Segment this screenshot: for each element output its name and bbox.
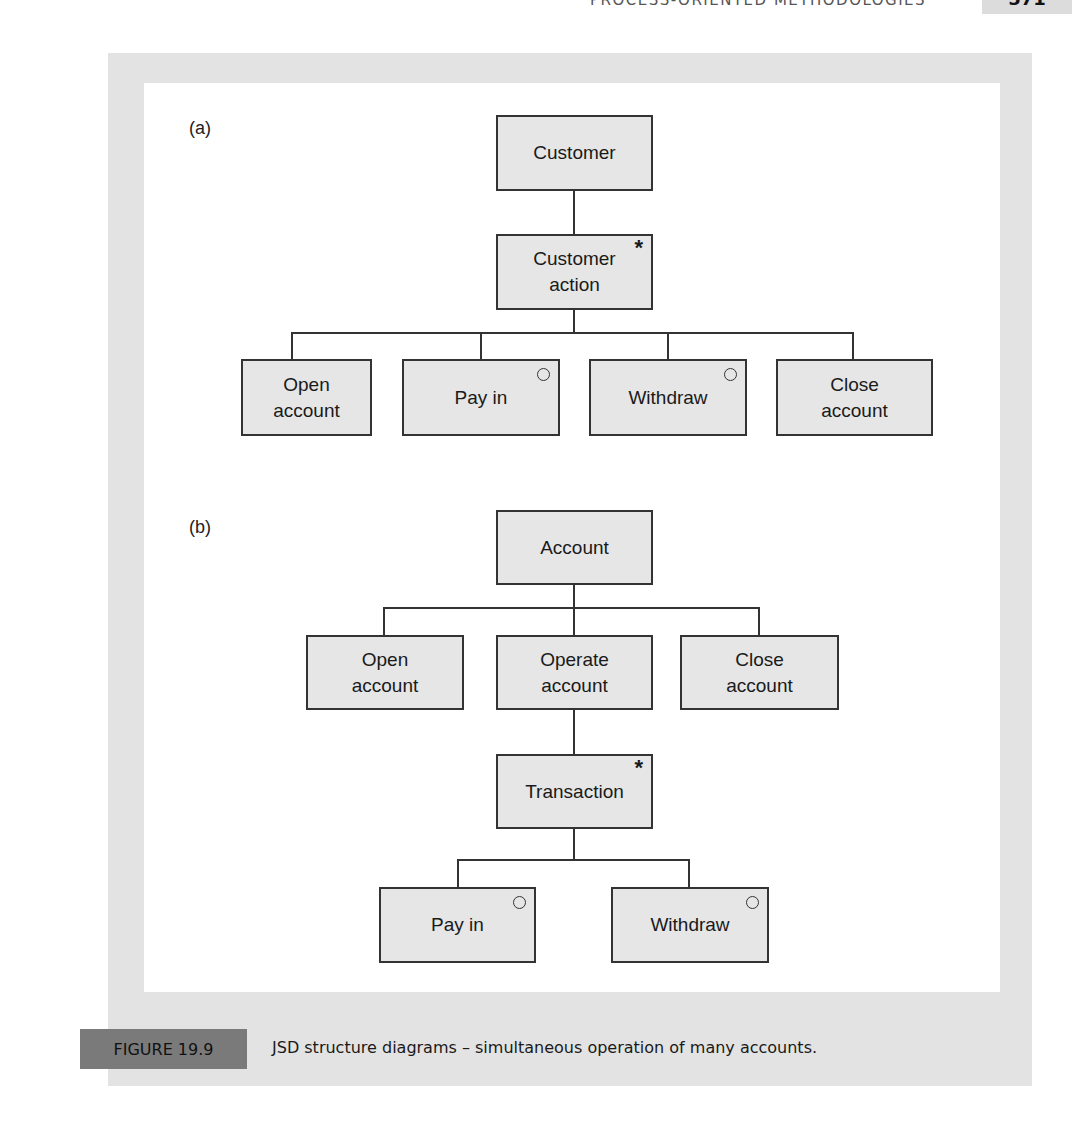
running-header-title: PROCESS-ORIENTED METHODOLOGIES	[590, 0, 926, 9]
selection-circle-icon	[537, 368, 550, 381]
connector-line	[852, 332, 854, 360]
connector-line	[383, 607, 385, 636]
node-text: Withdraw	[650, 912, 729, 938]
node-text: Operate account	[540, 647, 609, 699]
selection-circle-icon	[724, 368, 737, 381]
node-pay-in: Pay in	[379, 887, 536, 963]
node-text: Open account	[273, 372, 340, 424]
page-number: 571	[982, 0, 1072, 14]
node-text: Close account	[821, 372, 888, 424]
connector-line	[573, 309, 575, 334]
connector-bar	[457, 859, 690, 861]
selection-circle-icon	[746, 896, 759, 909]
node-pay-in: Pay in	[402, 359, 560, 436]
node-text: Withdraw	[628, 385, 707, 411]
connector-line	[573, 709, 575, 755]
connector-line	[688, 859, 690, 888]
node-account: Account	[496, 510, 653, 585]
node-transaction: Transaction *	[496, 754, 653, 829]
node-close-account: Close account	[680, 635, 839, 710]
node-close-account: Close account	[776, 359, 933, 436]
node-text: Open account	[352, 647, 419, 699]
connector-line	[758, 607, 760, 636]
node-withdraw: Withdraw	[611, 887, 769, 963]
figure-label: FIGURE 19.9	[80, 1029, 247, 1069]
node-open-account: Open account	[241, 359, 372, 436]
iteration-star-icon: *	[634, 757, 643, 779]
node-text: Account	[540, 535, 609, 561]
iteration-star-icon: *	[634, 237, 643, 259]
connector-bar	[291, 332, 854, 334]
connector-line	[573, 190, 575, 235]
connector-line	[667, 332, 669, 360]
figure-caption: JSD structure diagrams – simultaneous op…	[272, 1038, 817, 1057]
connector-line	[480, 332, 482, 360]
node-customer-action: Customer action *	[496, 234, 653, 310]
node-open-account: Open account	[306, 635, 464, 710]
node-operate-account: Operate account	[496, 635, 653, 710]
connector-bar	[383, 607, 760, 609]
node-text: Transaction	[525, 779, 624, 805]
node-withdraw: Withdraw	[589, 359, 747, 436]
diagram-b-label: (b)	[189, 517, 211, 538]
connector-line	[573, 828, 575, 861]
node-text: Pay in	[431, 912, 484, 938]
node-text: Pay in	[455, 385, 508, 411]
connector-line	[291, 332, 293, 360]
node-text: Close account	[726, 647, 793, 699]
connector-line	[573, 584, 575, 636]
selection-circle-icon	[513, 896, 526, 909]
node-text: Customer action	[533, 246, 615, 298]
node-text: Customer	[533, 140, 615, 166]
connector-line	[457, 859, 459, 888]
node-customer: Customer	[496, 115, 653, 191]
diagram-a-label: (a)	[189, 118, 211, 139]
